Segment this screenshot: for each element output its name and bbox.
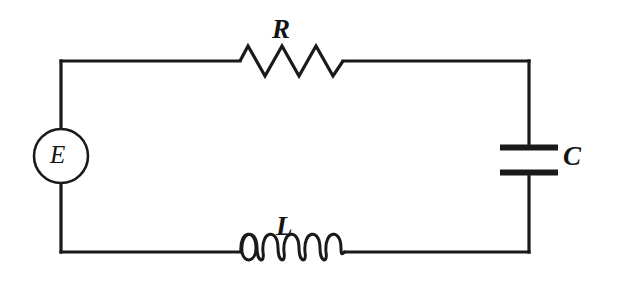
circuit-diagram: R C L E — [0, 0, 617, 290]
capacitor-label: C — [563, 143, 581, 170]
circuit-schematic-canvas — [0, 0, 617, 290]
resistor-label: R — [272, 16, 290, 43]
voltage-source-label: E — [50, 142, 65, 167]
capacitor-bottom-plate — [500, 170, 558, 176]
resistor-zigzag — [240, 46, 343, 76]
inductor-label: L — [276, 213, 293, 240]
capacitor-top-plate — [500, 145, 558, 151]
